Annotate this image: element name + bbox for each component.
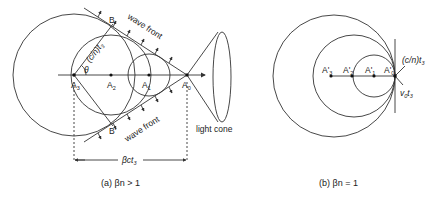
label-theta: θ <box>84 65 89 75</box>
label-distance: βct3 <box>121 155 137 166</box>
panel-b <box>273 15 405 137</box>
label-b-a1: A'1 <box>365 65 375 76</box>
label-a3: A3 <box>71 80 80 91</box>
caption-panel-a: (a) βn > 1 <box>101 178 140 188</box>
light-cone-ellipse <box>213 32 231 122</box>
point-a2 <box>109 73 112 76</box>
label-b-top: B <box>109 15 115 25</box>
label-a0: A0 <box>182 80 191 91</box>
panel-a-labels: B B' wave front wave front (c/n)t3 θ A3 … <box>71 11 233 188</box>
label-b-a2: A'2 <box>343 65 353 76</box>
point-a0 <box>186 74 189 77</box>
cherenkov-diagram: B B' wave front wave front (c/n)t3 θ A3 … <box>0 0 441 202</box>
label-light-cone: light cone <box>196 124 233 134</box>
label-a2: A2 <box>107 80 116 91</box>
radius-pointer <box>395 66 405 76</box>
label-wave-front-bottom: wave front <box>122 114 162 145</box>
label-wave-front-top: wave front <box>125 11 165 42</box>
label-a1: A1 <box>142 80 151 91</box>
panel-b-labels: A'3 A'2 A'1 A'0 (c/n)t3 v0t3 (b) βn = 1 <box>319 55 425 188</box>
point-a1 <box>147 73 150 76</box>
point-a3 <box>72 73 76 77</box>
panel-a <box>13 8 231 162</box>
label-b-velocity: v0t3 <box>400 88 414 99</box>
label-b-radius: (c/n)t3 <box>402 55 425 66</box>
velocity-pointer <box>395 76 403 85</box>
label-b-bottom: B' <box>109 126 117 136</box>
caption-panel-b: (b) βn = 1 <box>319 178 358 188</box>
label-b-a3: A'3 <box>322 65 332 76</box>
